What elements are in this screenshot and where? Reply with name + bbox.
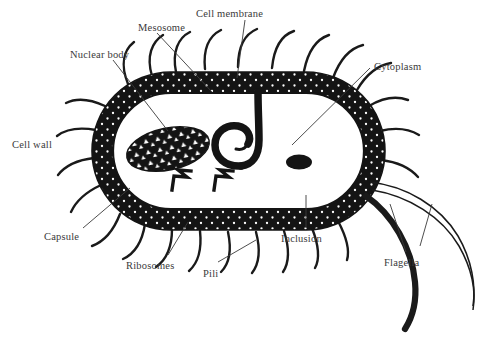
bacterial-cell-diagram: Mesosome Cell membrane Nuclear body Cyto…	[0, 0, 490, 342]
label-cytoplasm: Cytoplasm	[374, 62, 421, 73]
label-capsule: Capsule	[44, 232, 79, 243]
label-flagella: Flagella	[384, 258, 419, 269]
label-ribosomes: Ribosomes	[126, 261, 174, 272]
inclusion-body	[286, 155, 312, 170]
label-cell-wall: Cell wall	[12, 140, 52, 151]
label-nuclear-body: Nuclear body	[70, 50, 129, 61]
label-mesosome: Mesosome	[138, 23, 185, 34]
label-inclusion: Inclusion	[281, 234, 322, 245]
label-cell-membrane: Cell membrane	[196, 9, 263, 20]
label-pili: Pili	[203, 269, 218, 280]
